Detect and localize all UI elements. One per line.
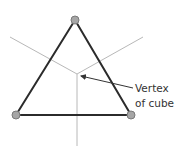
- axis-upper-left: [10, 37, 77, 74]
- vertex-dot-bottom-right: [127, 111, 135, 119]
- vertex-label-line1: Vertex: [135, 81, 169, 96]
- vertex-dot-bottom-left: [12, 111, 20, 119]
- vertex-dot-top: [71, 16, 79, 24]
- cube-vertex-diagram: [0, 0, 181, 156]
- axis-upper-right: [77, 37, 143, 74]
- arrow-icon: [81, 76, 133, 88]
- vertex-label-line2: of cube: [135, 96, 174, 111]
- triangle: [16, 20, 131, 115]
